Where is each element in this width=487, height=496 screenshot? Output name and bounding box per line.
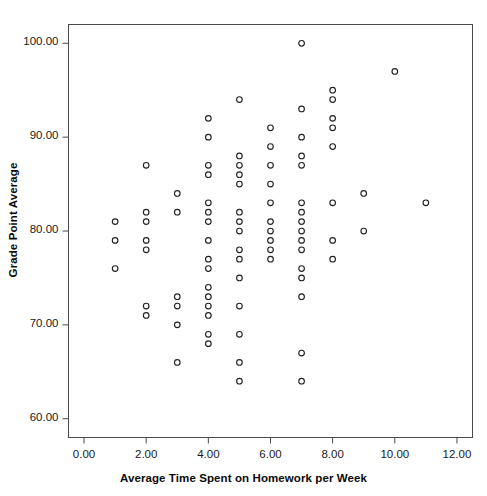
y-tick-label: 80.00: [7, 223, 59, 235]
data-point: [237, 209, 243, 215]
data-point: [361, 191, 367, 197]
data-point: [330, 97, 336, 103]
data-point: [143, 238, 149, 244]
data-point: [174, 360, 180, 366]
data-point: [206, 256, 212, 262]
data-point: [206, 313, 212, 319]
data-point: [143, 209, 149, 215]
x-tick-label: 2.00: [116, 448, 176, 460]
data-point: [237, 172, 243, 178]
data-point: [206, 238, 212, 244]
data-point: [174, 294, 180, 300]
data-point: [268, 228, 274, 234]
data-point: [268, 181, 274, 187]
data-point: [330, 144, 336, 150]
data-point: [206, 331, 212, 337]
data-point: [299, 294, 305, 300]
data-point-group: [112, 40, 428, 384]
data-point: [423, 200, 429, 206]
data-point: [143, 303, 149, 309]
x-tick-label: 12.00: [427, 448, 487, 460]
data-point: [237, 247, 243, 253]
data-point: [299, 153, 305, 159]
data-point: [361, 228, 367, 234]
y-tick-label: 70.00: [7, 317, 59, 329]
data-point: [112, 219, 118, 225]
data-point: [392, 69, 398, 75]
data-point: [268, 200, 274, 206]
y-axis-ticks: [63, 43, 69, 418]
data-point: [206, 200, 212, 206]
data-point: [299, 350, 305, 356]
data-point: [330, 87, 336, 93]
data-point: [206, 172, 212, 178]
x-tick-label: 10.00: [365, 448, 425, 460]
data-point: [299, 275, 305, 281]
data-point: [206, 219, 212, 225]
y-axis-title-container: Grade Point Average: [0, 0, 26, 440]
data-point: [237, 153, 243, 159]
data-point: [237, 360, 243, 366]
data-point: [237, 219, 243, 225]
data-point: [206, 116, 212, 122]
x-tick-label: 6.00: [241, 448, 301, 460]
data-point: [206, 341, 212, 347]
data-point: [174, 191, 180, 197]
data-point: [268, 219, 274, 225]
data-point: [237, 256, 243, 262]
data-point: [330, 125, 336, 131]
x-tick-label: 0.00: [54, 448, 114, 460]
data-point: [330, 256, 336, 262]
data-point: [268, 256, 274, 262]
data-point: [268, 238, 274, 244]
data-point: [268, 125, 274, 131]
data-point: [268, 163, 274, 169]
data-point: [206, 285, 212, 291]
x-tick-label: 8.00: [303, 448, 363, 460]
data-point: [330, 238, 336, 244]
data-point: [237, 303, 243, 309]
data-point: [268, 144, 274, 150]
data-point: [143, 247, 149, 253]
data-point: [299, 247, 305, 253]
data-point: [299, 219, 305, 225]
data-point: [206, 163, 212, 169]
data-point: [330, 116, 336, 122]
data-point: [174, 322, 180, 328]
data-point: [299, 200, 305, 206]
data-point: [299, 266, 305, 272]
data-point: [299, 228, 305, 234]
x-tick-label: 4.00: [178, 448, 238, 460]
data-point: [299, 378, 305, 384]
data-point: [299, 238, 305, 244]
data-point: [268, 247, 274, 253]
scatter-plot-figure: Grade Point Average Average Time Spent o…: [0, 0, 487, 496]
plot-frame: [69, 25, 473, 438]
data-point: [206, 266, 212, 272]
y-tick-label: 90.00: [7, 129, 59, 141]
y-tick-label: 100.00: [7, 35, 59, 47]
data-point: [237, 378, 243, 384]
data-point: [299, 40, 305, 46]
data-point: [143, 313, 149, 319]
data-point: [112, 266, 118, 272]
data-point: [143, 163, 149, 169]
plot-canvas: [0, 0, 487, 496]
data-point: [206, 209, 212, 215]
data-point: [299, 106, 305, 112]
data-point: [237, 331, 243, 337]
data-point: [237, 97, 243, 103]
data-point: [143, 219, 149, 225]
data-point: [206, 134, 212, 140]
data-point: [299, 163, 305, 169]
data-point: [206, 303, 212, 309]
data-point: [237, 163, 243, 169]
x-axis-ticks: [84, 438, 457, 444]
data-point: [299, 134, 305, 140]
data-point: [237, 228, 243, 234]
y-axis-title: Grade Point Average: [7, 163, 19, 278]
data-point: [174, 303, 180, 309]
y-tick-label: 60.00: [7, 411, 59, 423]
data-point: [206, 294, 212, 300]
data-point: [237, 275, 243, 281]
